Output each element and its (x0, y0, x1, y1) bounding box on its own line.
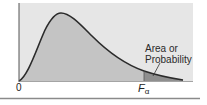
annotation-line-1: Area or (145, 43, 192, 54)
origin-label: 0 (16, 83, 22, 93)
annotation-line-2: Probability (145, 54, 192, 65)
critical-value-main: F (138, 82, 145, 94)
area-probability-annotation: Area or Probability (145, 43, 192, 65)
critical-value-label: Fα (138, 83, 149, 96)
critical-value-subscript: α (145, 87, 150, 96)
